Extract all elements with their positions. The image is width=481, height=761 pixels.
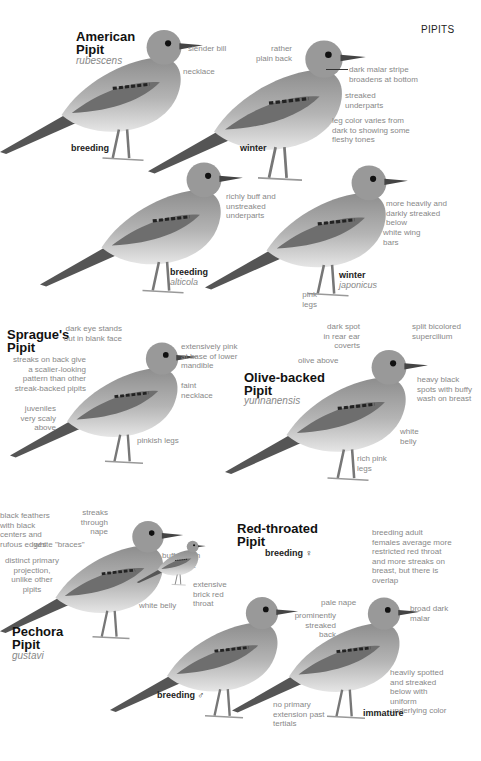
plate-label: breeding ♂ bbox=[157, 690, 204, 700]
note-white-braces: white "braces" bbox=[34, 540, 85, 550]
species-name-pechora-pipit: Pechora Pipit bbox=[12, 625, 63, 651]
note-no-primary-extension: no primary extension past tertials bbox=[273, 700, 328, 729]
illustration-american-pipit-japonicus bbox=[205, 148, 410, 308]
note-olive-above: olive above bbox=[298, 356, 338, 366]
note-white-wing-bars: white wing bars bbox=[383, 228, 423, 247]
note-streaked-underparts: streaked underparts bbox=[345, 91, 405, 110]
note-rich-pink-legs: rich pink legs bbox=[357, 454, 392, 473]
illustration-olive-backed-pipit bbox=[225, 330, 430, 495]
page-heading: PIPITS bbox=[421, 24, 454, 35]
note-rather-plain-back: rather plain back bbox=[252, 44, 292, 63]
note-white-belly: white belly bbox=[400, 427, 430, 446]
leader-line bbox=[326, 69, 348, 70]
plate-sublabel: alticola bbox=[170, 277, 198, 287]
plate-label: breeding bbox=[170, 267, 208, 277]
note-juveniles-scaly: juveniles very scaly above bbox=[8, 404, 56, 433]
note-dark-eye: dark eye stands out in blank face bbox=[60, 324, 122, 343]
note-dark-malar-stripe: dark malar stripe broadens at bottom bbox=[349, 65, 439, 84]
plate-sublabel: japonicus bbox=[339, 280, 377, 290]
plate-label: winter bbox=[339, 270, 366, 280]
note-streaks-nape: streaks through nape bbox=[80, 508, 108, 537]
note-pinkish-legs: pinkish legs bbox=[137, 436, 179, 446]
note-split-supercilium: split bicolored supercilium bbox=[412, 322, 467, 341]
note-more-heavily-streaked: more heavily and darkly streaked below bbox=[386, 199, 451, 228]
plate-label: immature bbox=[363, 708, 404, 718]
note-pink-legs: pink legs bbox=[292, 290, 317, 309]
note-primary-projection: distinct primary projection, unlike othe… bbox=[4, 556, 60, 594]
note-scalier-pattern: streaks on back give a scalier-looking p… bbox=[10, 355, 86, 393]
note-dark-ear-spot: dark spot in rear ear coverts bbox=[320, 322, 360, 351]
note-leg-color: leg color varies from dark to showing so… bbox=[332, 116, 412, 145]
subspecies-gustavi: gustavi bbox=[12, 650, 44, 661]
note-heavy-black-spots: heavy black spots with buffy wash on bre… bbox=[417, 375, 472, 404]
note-faint-necklace: faint necklace bbox=[181, 381, 221, 400]
